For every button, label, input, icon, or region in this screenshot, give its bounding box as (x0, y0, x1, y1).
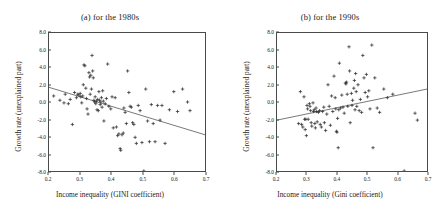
scatter-point (360, 111, 363, 114)
panel-b-plot-area (276, 32, 428, 172)
y-tick-label: -2.0 (265, 117, 274, 123)
scatter-point (348, 69, 351, 72)
scatter-point (58, 99, 61, 102)
scatter-point (311, 101, 314, 104)
scatter-point (89, 93, 92, 96)
y-tick-label: -6.0 (265, 152, 274, 158)
scatter-point (382, 87, 385, 90)
scatter-point (328, 105, 331, 108)
scatter-point (331, 110, 334, 113)
y-tick-mark (48, 137, 51, 138)
scatter-point (138, 109, 141, 112)
x-tick-label: 0.6 (394, 176, 401, 182)
scatter-point (86, 112, 89, 115)
scatter-point (85, 97, 88, 100)
scatter-point (330, 94, 333, 97)
scatter-point (80, 101, 83, 104)
scatter-point (386, 96, 389, 99)
y-tick-mark (276, 119, 279, 120)
scatter-point (71, 123, 74, 126)
y-tick-label: -4.0 (37, 134, 46, 140)
x-tick-label: 0.7 (425, 176, 432, 182)
x-tick-mark (206, 172, 207, 175)
scatter-point (87, 71, 90, 74)
scatter-point (326, 83, 329, 86)
scatter-point (127, 91, 130, 94)
scatter-point (310, 121, 313, 124)
scatter-point (371, 146, 374, 149)
y-tick-label: 6.0 (267, 47, 274, 53)
scatter-point (310, 124, 313, 127)
scatter-point (97, 90, 100, 93)
panel-a-scatter-svg (49, 33, 205, 171)
scatter-point (297, 122, 300, 125)
x-tick-mark (428, 172, 429, 175)
x-tick-mark (79, 172, 80, 175)
scatter-point (334, 96, 337, 99)
scatter-point (168, 108, 171, 111)
scatter-point (82, 83, 85, 86)
scatter-point (188, 109, 191, 112)
scatter-point (106, 62, 109, 65)
panel-b-x-axis-title: Income inequality (Gini coefficient) (220, 190, 440, 199)
scatter-point (64, 93, 67, 96)
scatter-point (90, 54, 93, 57)
x-tick-label: 0.7 (203, 176, 210, 182)
scatter-point (113, 96, 116, 99)
scatter-point (85, 107, 88, 110)
scatter-point (73, 91, 76, 94)
scatter-point (100, 96, 103, 99)
x-tick-label: 0.2 (273, 176, 280, 182)
panel-b-y-axis-title: Growth rate (unexplained part) (242, 42, 251, 172)
y-tick-label: 6.0 (39, 47, 46, 53)
scatter-point (338, 62, 341, 65)
y-tick-mark (48, 49, 51, 50)
scatter-point (75, 96, 78, 99)
x-tick-mark (306, 172, 307, 175)
y-tick-mark (48, 67, 51, 68)
scatter-point (361, 54, 364, 57)
y-tick-mark (48, 154, 51, 155)
scatter-point (186, 100, 189, 103)
scatter-point (90, 87, 93, 90)
y-tick-label: 4.0 (39, 64, 46, 70)
scatter-point (153, 140, 156, 143)
scatter-point (355, 90, 358, 93)
scatter-point (356, 83, 359, 86)
scatter-point (313, 122, 316, 125)
scatter-point (337, 108, 340, 111)
panel-a-x-axis-title: Income inequality (GINI coefficient) (0, 190, 220, 199)
scatter-point (346, 93, 349, 96)
y-tick-mark (276, 49, 279, 50)
scatter-point (163, 142, 166, 145)
scatter-point (329, 124, 332, 127)
y-tick-mark (48, 32, 51, 33)
panel-b-scatter-svg (277, 33, 427, 171)
scatter-point (105, 97, 108, 100)
x-tick-mark (48, 172, 49, 175)
scatter-point (362, 76, 365, 79)
scatter-point (373, 76, 376, 79)
figure-container: (a) for the 1980s 8.06.04.02.00.0-2.0-4.… (0, 0, 440, 213)
scatter-point (305, 134, 308, 137)
x-tick-label: 0.4 (108, 176, 115, 182)
scatter-point (368, 107, 371, 110)
scatter-point (125, 122, 128, 125)
scatter-point (172, 90, 175, 93)
scatter-point (148, 140, 151, 143)
y-tick-label: -4.0 (265, 134, 274, 140)
x-tick-mark (397, 172, 398, 175)
scatter-point (343, 112, 346, 115)
y-tick-label: 2.0 (39, 82, 46, 88)
scatter-point (347, 45, 350, 48)
scatter-point (101, 89, 104, 92)
scatter-point (354, 72, 357, 75)
scatter-point (102, 119, 105, 122)
scatter-point (355, 105, 358, 108)
scatter-point (413, 112, 416, 115)
scatter-point (353, 108, 356, 111)
panel-b-title: (b) for the 1990s (220, 12, 440, 22)
x-tick-label: 0.5 (139, 176, 146, 182)
scatter-point (119, 149, 122, 152)
scatter-point (366, 95, 369, 98)
